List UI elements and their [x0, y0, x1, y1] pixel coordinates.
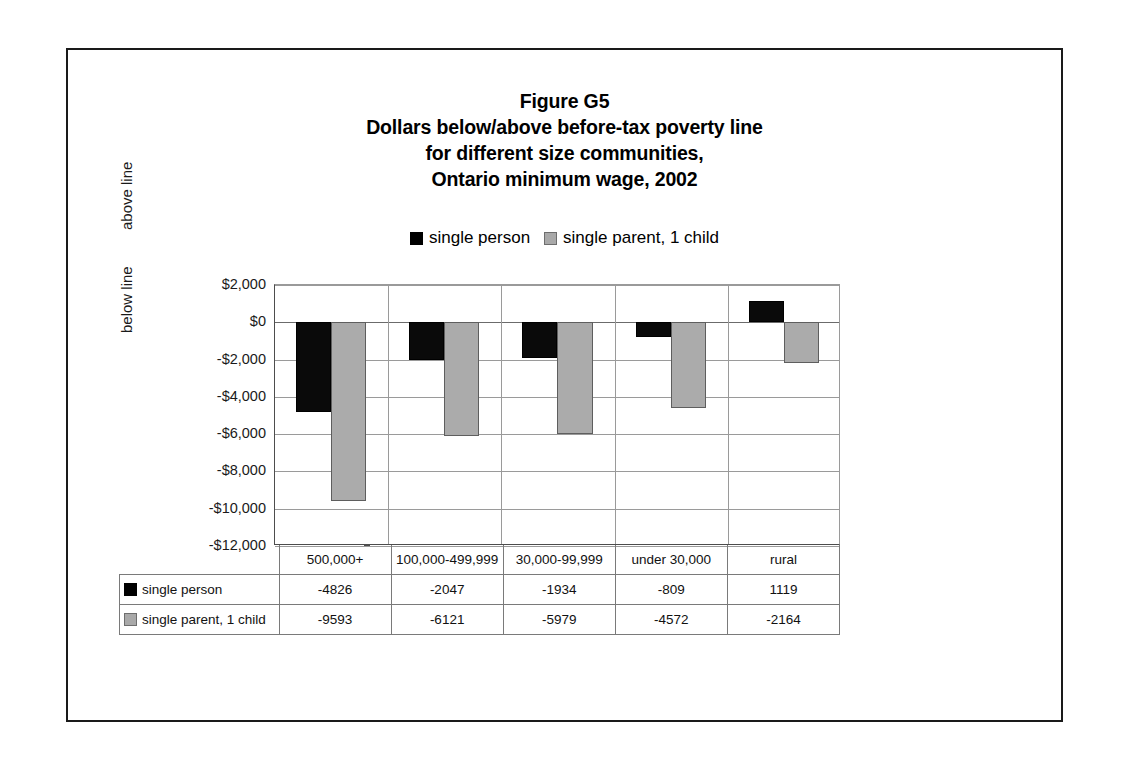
data-table: 500,000+100,000-499,99930,000-99,999unde… — [119, 545, 840, 635]
chart-legend: single person single parent, 1 child — [68, 228, 1061, 248]
cell-r0-c3: -809 — [615, 575, 727, 605]
cell-r0-c1: -2047 — [391, 575, 503, 605]
bar-single-person-2[interactable] — [522, 322, 557, 358]
legend-entry-single-person: single person — [410, 228, 530, 248]
legend-label-single-person: single person — [429, 228, 530, 248]
cell-r1-c3: -4572 — [615, 605, 727, 635]
axis-annotation-above-line: above line — [118, 162, 135, 230]
gray-square-icon — [124, 613, 137, 626]
row-header-label: single person — [142, 582, 222, 597]
bar-group — [388, 285, 501, 544]
bar-single-person-3[interactable] — [636, 322, 671, 337]
axis-annotation-below-line: below line — [118, 266, 135, 333]
row-header-0: single person — [120, 575, 280, 605]
legend-label-single-parent: single parent, 1 child — [563, 228, 719, 248]
black-square-icon — [410, 232, 423, 245]
y-axis-tick-label: -$4,000 — [217, 388, 266, 404]
cell-r1-c0: -9593 — [279, 605, 391, 635]
y-axis-tick-label: -$8,000 — [217, 462, 266, 478]
bar-group — [275, 285, 388, 544]
column-header-4: rural — [727, 545, 839, 575]
bar-single-parent-1[interactable] — [444, 322, 479, 436]
y-axis-tick-label: $0 — [250, 313, 266, 329]
bar-single-parent-0[interactable] — [331, 322, 366, 501]
title-line-4: Ontario minimum wage, 2002 — [68, 166, 1061, 192]
y-axis-tick-label: -$10,000 — [209, 500, 266, 516]
bar-group — [501, 285, 614, 544]
y-axis-tick-label: -$6,000 — [217, 425, 266, 441]
bar-single-parent-3[interactable] — [671, 322, 706, 407]
row-header-content: single parent, 1 child — [124, 612, 277, 627]
y-axis-tick-labels: $2,000$0-$2,000-$4,000-$6,000-$8,000-$10… — [164, 284, 266, 545]
row-header-content: single person — [124, 582, 277, 597]
table-row: single parent, 1 child-9593-6121-5979-45… — [120, 605, 840, 635]
table-row: single person-4826-2047-1934-8091119 — [120, 575, 840, 605]
bar-single-person-0[interactable] — [296, 322, 331, 412]
bar-single-person-1[interactable] — [409, 322, 444, 360]
legend-entry-single-parent: single parent, 1 child — [544, 228, 719, 248]
cell-r1-c4: -2164 — [727, 605, 839, 635]
row-header-label: single parent, 1 child — [142, 612, 266, 627]
bar-group — [615, 285, 728, 544]
cell-r0-c4: 1119 — [727, 575, 839, 605]
cell-r0-c0: -4826 — [279, 575, 391, 605]
column-header-0: 500,000+ — [279, 545, 391, 575]
bar-single-parent-2[interactable] — [557, 322, 592, 433]
row-header-1: single parent, 1 child — [120, 605, 280, 635]
y-axis-tick-label: -$2,000 — [217, 351, 266, 367]
data-table-body: 500,000+100,000-499,99930,000-99,999unde… — [120, 545, 840, 635]
title-line-2: Dollars below/above before-tax poverty l… — [68, 114, 1061, 140]
bar-single-person-4[interactable] — [749, 301, 784, 322]
table-corner-cell — [120, 545, 280, 575]
cell-r1-c1: -6121 — [391, 605, 503, 635]
cell-r1-c2: -5979 — [503, 605, 615, 635]
column-header-2: 30,000-99,999 — [503, 545, 615, 575]
plot-area — [274, 284, 840, 545]
title-line-1: Figure G5 — [68, 88, 1061, 114]
gray-square-icon — [544, 232, 557, 245]
column-header-3: under 30,000 — [615, 545, 727, 575]
y-axis-tick-label: $2,000 — [222, 276, 266, 292]
bar-group — [728, 285, 841, 544]
cell-r0-c2: -1934 — [503, 575, 615, 605]
column-header-1: 100,000-499,999 — [391, 545, 503, 575]
page-title: Figure G5 Dollars below/above before-tax… — [68, 88, 1061, 192]
black-square-icon — [124, 583, 137, 596]
table-header-row: 500,000+100,000-499,99930,000-99,999unde… — [120, 545, 840, 575]
title-line-3: for different size communities, — [68, 140, 1061, 166]
bar-single-parent-4[interactable] — [784, 322, 819, 362]
figure-frame: Figure G5 Dollars below/above before-tax… — [66, 48, 1063, 722]
